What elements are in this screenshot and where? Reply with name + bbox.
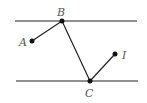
segment-ab [32, 21, 62, 41]
point-i [113, 52, 118, 57]
label-b: B [56, 6, 65, 19]
point-a [30, 39, 35, 44]
segment-bc [62, 21, 90, 81]
segment-ci [90, 54, 115, 81]
label-i: I [121, 49, 127, 62]
point-b [60, 19, 65, 24]
label-c: C [85, 87, 94, 100]
point-c [88, 79, 93, 84]
label-a: A [18, 36, 27, 49]
geometry-diagram: A B C I [0, 0, 147, 103]
